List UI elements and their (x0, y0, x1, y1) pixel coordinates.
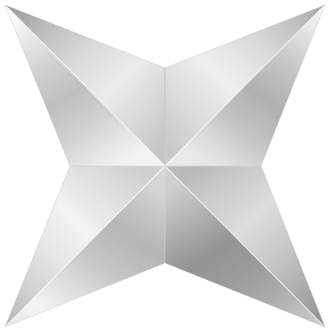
star-sheen-overlay (5, 5, 325, 327)
sheen-highlight (5, 5, 325, 327)
four-pointed-star-graphic (0, 0, 331, 332)
artwork-canvas: Metallic Four-Pointed Star faceted chrom… (0, 0, 331, 332)
